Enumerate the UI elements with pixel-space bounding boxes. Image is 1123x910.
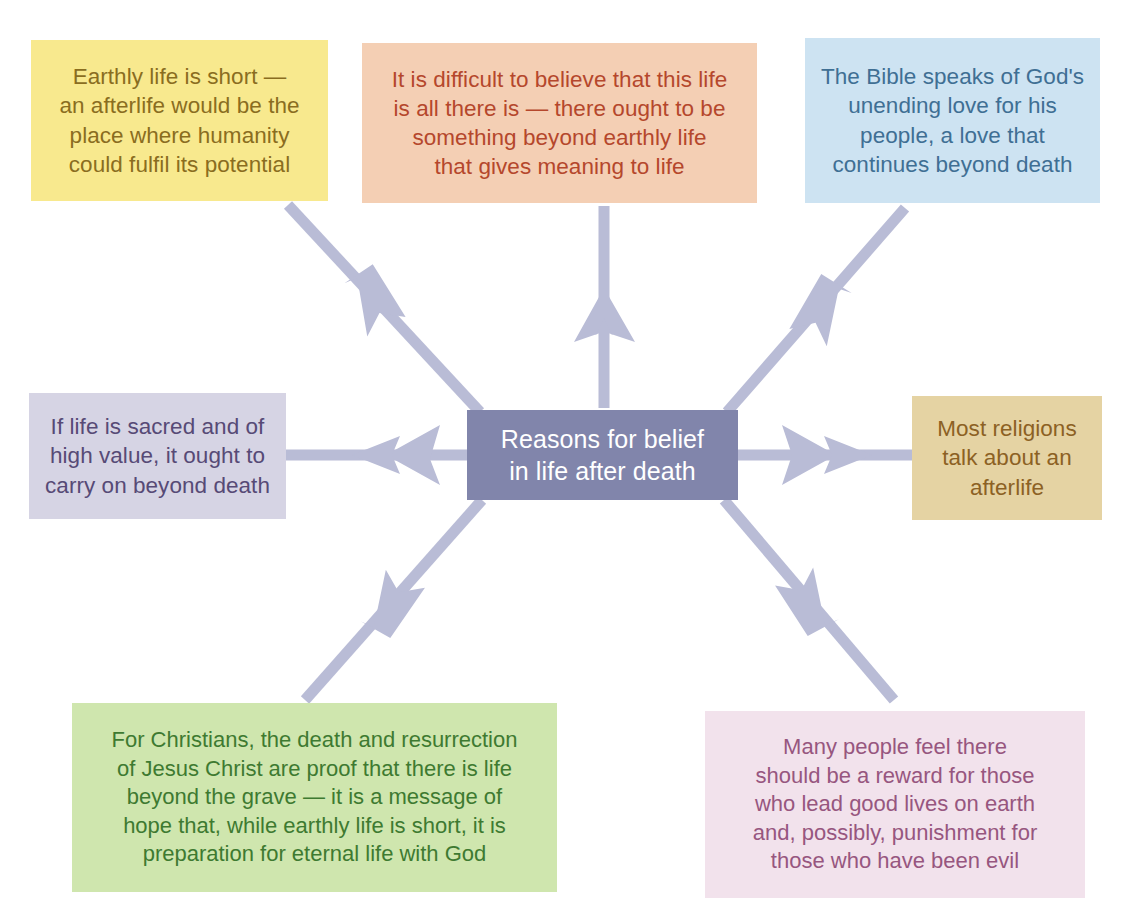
connector-to-most-religions <box>738 425 912 485</box>
node-most-religions[interactable]: Most religions talk about an afterlife <box>912 396 1102 520</box>
node-life-is-sacred-label: If life is sacred and of high value, it … <box>29 412 286 500</box>
connector-to-difficult-to-believe <box>574 206 635 408</box>
connector-to-christians-resurrection <box>305 500 482 700</box>
mind-map-diagram: .conn { stroke: #b9bcd6; stroke-width: 1… <box>0 0 1123 910</box>
node-difficult-to-believe[interactable]: It is difficult to believe that this lif… <box>362 43 757 203</box>
node-bible-unending-love-label: The Bible speaks of God's unending love … <box>805 62 1100 179</box>
connector-to-life-is-sacred <box>286 425 467 485</box>
center-node-label: Reasons for belief in life after death <box>467 423 738 488</box>
connector-to-reward-and-punishment <box>724 500 894 700</box>
node-christians-resurrection[interactable]: For Christians, the death and resurrecti… <box>72 703 557 892</box>
connector-to-earthly-life-short <box>288 205 480 412</box>
node-life-is-sacred[interactable]: If life is sacred and of high value, it … <box>29 393 286 519</box>
center-node[interactable]: Reasons for belief in life after death <box>467 410 738 500</box>
node-difficult-to-believe-label: It is difficult to believe that this lif… <box>362 65 757 182</box>
node-christians-resurrection-label: For Christians, the death and resurrecti… <box>72 726 557 869</box>
node-bible-unending-love[interactable]: The Bible speaks of God's unending love … <box>805 38 1100 203</box>
node-most-religions-label: Most religions talk about an afterlife <box>912 414 1102 502</box>
node-reward-and-punishment[interactable]: Many people feel there should be a rewar… <box>705 711 1085 898</box>
node-reward-and-punishment-label: Many people feel there should be a rewar… <box>705 733 1085 876</box>
connector-to-bible-unending-love <box>727 208 905 412</box>
node-earthly-life-short[interactable]: Earthly life is short — an afterlife wou… <box>31 40 328 201</box>
node-earthly-life-short-label: Earthly life is short — an afterlife wou… <box>31 62 328 179</box>
